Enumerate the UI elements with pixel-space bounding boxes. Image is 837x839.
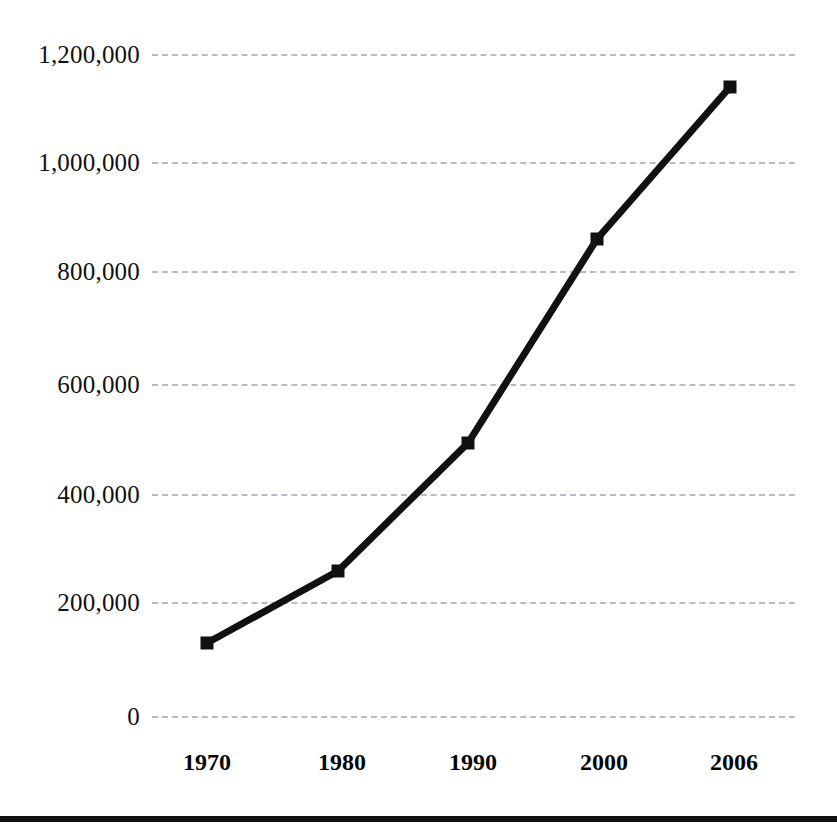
data-point-2006[interactable] <box>724 81 737 94</box>
series-layer <box>0 0 837 790</box>
chart-page: 1,200,000 1,000,000 800,000 600,000 400,… <box>0 0 837 839</box>
footer-rule <box>0 816 837 822</box>
data-point-1990[interactable] <box>462 437 475 450</box>
data-point-1980[interactable] <box>332 565 345 578</box>
data-point-2000[interactable] <box>591 233 604 246</box>
x-tick-label-1990: 1990 <box>449 749 497 776</box>
x-tick-label-2006: 2006 <box>710 749 758 776</box>
x-tick-label-1980: 1980 <box>318 749 366 776</box>
series-line <box>207 87 730 643</box>
line-chart: 1,200,000 1,000,000 800,000 600,000 400,… <box>0 0 837 790</box>
x-tick-label-2000: 2000 <box>580 749 628 776</box>
x-tick-label-1970: 1970 <box>183 749 231 776</box>
data-point-1970[interactable] <box>201 637 214 650</box>
